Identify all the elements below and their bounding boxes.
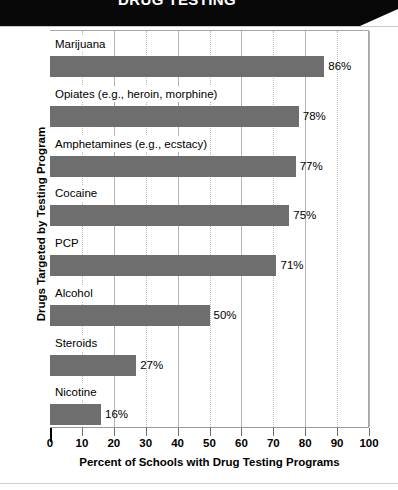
bar — [50, 205, 289, 226]
bar-category-label: Cocaine — [54, 185, 100, 201]
bar-category-label: Steroids — [54, 335, 100, 351]
x-tick-label-60: 60 — [235, 437, 248, 449]
bar-category-label: Marijuana — [54, 36, 109, 52]
x-tick-40 — [178, 428, 179, 436]
bar-value-label: 77% — [300, 156, 323, 177]
bar-value-label: 78% — [303, 106, 326, 127]
gridline-100 — [369, 31, 370, 427]
x-tick-100 — [369, 428, 370, 436]
bar — [50, 106, 299, 127]
x-tick-10 — [82, 428, 83, 436]
bar-category-label: Nicotine — [54, 384, 100, 400]
bar-value-label: 27% — [140, 355, 163, 376]
x-tick-label-80: 80 — [299, 437, 312, 449]
bar-category-label: Alcohol — [54, 285, 96, 301]
x-tick-80 — [305, 428, 306, 436]
bar-row: PCP71% — [50, 230, 368, 280]
bar-value-label: 16% — [105, 404, 128, 425]
x-tick-label-20: 20 — [107, 437, 120, 449]
bar-row: Opiates (e.g., heroin, morphine)78% — [50, 81, 368, 131]
x-tick-label-100: 100 — [359, 437, 378, 449]
x-axis-title: Percent of Schools with Drug Testing Pro… — [50, 456, 369, 468]
bar-category-label: PCP — [54, 235, 82, 251]
bar-category-label: Amphetamines (e.g., ecstacy) — [54, 136, 210, 152]
x-tick-label-70: 70 — [267, 437, 280, 449]
x-tick-label-10: 10 — [75, 437, 88, 449]
x-tick-label-30: 30 — [139, 437, 152, 449]
bar-row: Steroids27% — [50, 330, 368, 380]
plot-area: Marijuana86%Opiates (e.g., heroin, morph… — [50, 30, 369, 428]
x-tick-20 — [114, 428, 115, 436]
top-banner: DRUG TESTING — [0, 0, 398, 26]
bar — [50, 355, 136, 376]
x-tick-70 — [273, 428, 274, 436]
bar-row: Alcohol50% — [50, 280, 368, 330]
bar-chart-figure: Drugs Targeted by Testing Program Mariju… — [0, 26, 398, 490]
x-tick-90 — [337, 428, 338, 436]
bar-value-label: 50% — [214, 305, 237, 326]
x-tick-label-0: 0 — [47, 437, 53, 449]
bar — [50, 255, 276, 276]
banner-title: DRUG TESTING — [118, 0, 236, 8]
x-tick-30 — [146, 428, 147, 436]
x-tick-label-90: 90 — [331, 437, 344, 449]
bar — [50, 56, 324, 77]
bottom-rule — [0, 483, 398, 484]
x-tick-label-40: 40 — [171, 437, 184, 449]
x-axis: 0102030405060708090100 — [50, 428, 369, 450]
bar-value-label: 75% — [293, 205, 316, 226]
bar-row: Cocaine75% — [50, 180, 368, 230]
bar — [50, 404, 101, 425]
x-tick-label-50: 50 — [203, 437, 216, 449]
bar — [50, 305, 210, 326]
x-tick-50 — [210, 428, 211, 436]
bar-row: Amphetamines (e.g., ecstacy)77% — [50, 131, 368, 181]
bar-value-label: 86% — [328, 56, 351, 77]
y-axis-title: Drugs Targeted by Testing Program — [35, 99, 47, 349]
bar-category-label: Opiates (e.g., heroin, morphine) — [54, 86, 220, 102]
x-tick-60 — [241, 428, 242, 436]
bar-row: Nicotine16% — [50, 379, 368, 429]
bar — [50, 156, 296, 177]
bar-value-label: 71% — [280, 255, 303, 276]
bar-row: Marijuana86% — [50, 31, 368, 81]
x-tick-0 — [50, 428, 52, 437]
